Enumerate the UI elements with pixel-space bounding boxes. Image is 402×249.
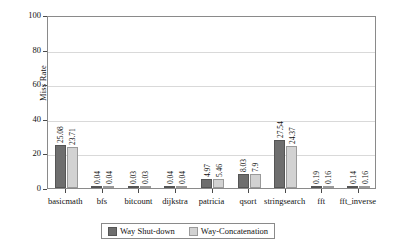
- legend-label: Way-Concatenation: [201, 226, 268, 236]
- bar-group: 27.5424.37: [274, 17, 297, 188]
- bar: 0.04: [103, 186, 114, 188]
- x-tick-mark: [212, 189, 213, 193]
- x-tick-mark: [321, 189, 322, 193]
- x-tick-mark: [102, 189, 103, 193]
- x-tick-mark: [138, 189, 139, 193]
- bar: 0.19: [311, 186, 322, 188]
- bar-chart: Miss Rate 020406080100 25.0823.710.040.0…: [0, 0, 402, 249]
- x-tick-mark: [175, 189, 176, 193]
- bar-value-label: 5.46: [214, 163, 223, 176]
- legend-swatch: [108, 227, 117, 236]
- bar: 0.16: [359, 186, 370, 188]
- y-tick-label: 20: [15, 148, 41, 158]
- chart-legend: Way Shut-downWay-Concatenation: [101, 223, 275, 239]
- y-tick-label: 40: [15, 114, 41, 124]
- bar-group: 8.037.9: [238, 17, 261, 188]
- bar-group: 0.040.04: [164, 17, 187, 188]
- bar-value-label: 0.14: [348, 171, 357, 184]
- legend-swatch: [189, 227, 198, 236]
- bar-value-label: 0.16: [360, 171, 369, 184]
- bar-group: 0.190.16: [311, 17, 334, 188]
- bar-value-label: 0.03: [141, 171, 150, 184]
- bar: 7.9: [250, 174, 261, 188]
- x-tick-mark: [248, 189, 249, 193]
- y-tick-label: 100: [15, 10, 41, 20]
- bar: 5.46: [213, 179, 224, 188]
- x-tick-mark: [358, 189, 359, 193]
- bar-value-label: 0.03: [129, 171, 138, 184]
- bar-value-label: 0.04: [92, 171, 101, 184]
- y-tick-label: 0: [15, 183, 41, 193]
- bar-value-label: 4.97: [202, 164, 211, 177]
- bar: 25.08: [55, 145, 66, 188]
- y-tick-label: 80: [15, 45, 41, 55]
- bar-group: 0.040.04: [91, 17, 114, 188]
- bar-value-label: 8.03: [239, 159, 248, 172]
- x-tick-label: basicmath: [48, 196, 82, 206]
- bar: 0.04: [164, 186, 175, 188]
- bar-value-label: 7.9: [251, 163, 260, 172]
- legend-entry: Way Shut-down: [108, 226, 175, 236]
- bar: 4.97: [201, 179, 212, 188]
- x-tick-label: patricia: [199, 196, 224, 206]
- bar: 8.03: [238, 174, 249, 188]
- plot-area: 25.0823.710.040.040.030.030.040.044.975.…: [47, 16, 376, 189]
- y-tick-mark: [43, 189, 47, 190]
- bar: 0.03: [128, 186, 139, 188]
- x-tick-label: stringsearch: [264, 196, 305, 206]
- bar: 27.54: [274, 140, 285, 188]
- x-tick-label: fft_inverse: [339, 196, 376, 206]
- bar-value-label: 25.08: [56, 126, 65, 143]
- bar-value-label: 23.71: [68, 128, 77, 145]
- y-tick-label: 60: [15, 79, 41, 89]
- x-tick-label: fft: [317, 196, 325, 206]
- x-tick-mark: [65, 189, 66, 193]
- bar: 0.14: [347, 186, 358, 188]
- bar: 0.04: [176, 186, 187, 188]
- legend-entry: Way-Concatenation: [189, 226, 268, 236]
- x-tick-mark: [285, 189, 286, 193]
- bar: 24.37: [286, 146, 297, 188]
- bar-group: 25.0823.71: [55, 17, 78, 188]
- bar-value-label: 0.04: [165, 171, 174, 184]
- bar-value-label: 0.04: [177, 171, 186, 184]
- bar: 0.04: [91, 186, 102, 188]
- bar-value-label: 24.37: [287, 127, 296, 144]
- legend-label: Way Shut-down: [120, 226, 175, 236]
- bar-value-label: 0.04: [104, 171, 113, 184]
- x-tick-label: bfs: [97, 196, 107, 206]
- bar: 0.16: [323, 186, 334, 188]
- x-tick-label: dijkstra: [162, 196, 188, 206]
- bar-group: 4.975.46: [201, 17, 224, 188]
- bar-group: 0.140.16: [347, 17, 370, 188]
- x-tick-label: bitcount: [124, 196, 152, 206]
- bar: 23.71: [67, 147, 78, 188]
- bar-value-label: 27.54: [275, 121, 284, 138]
- bar-value-label: 0.16: [324, 171, 333, 184]
- bar: 0.03: [140, 186, 151, 188]
- bar-value-label: 0.19: [312, 171, 321, 184]
- x-tick-label: qsort: [240, 196, 257, 206]
- bar-group: 0.030.03: [128, 17, 151, 188]
